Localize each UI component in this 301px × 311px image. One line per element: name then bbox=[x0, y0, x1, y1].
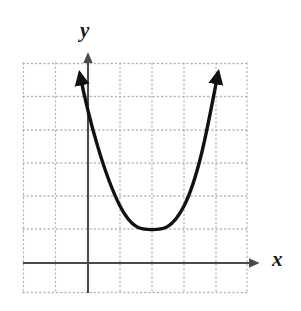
axes bbox=[23, 54, 258, 293]
coordinate-plane-svg bbox=[0, 0, 301, 311]
x-axis-label: x bbox=[272, 249, 283, 270]
y-axis-label: y bbox=[80, 20, 89, 41]
graph-figure: y x bbox=[0, 0, 301, 311]
